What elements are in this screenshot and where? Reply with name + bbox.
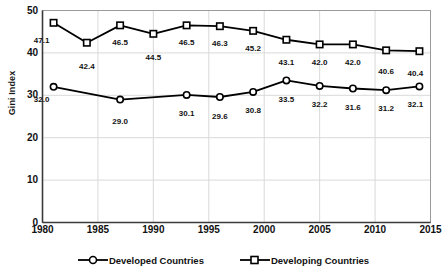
legend-marker-square-icon [240,254,270,266]
data-point-marker-square [50,20,56,26]
data-point-value-label: 29.0 [103,118,137,126]
data-point-marker-circle [183,92,189,98]
legend-item-label: Developing Countries [271,255,369,266]
data-point-marker-circle [117,96,123,102]
x-axis-tick-label: 1985 [76,225,120,235]
data-point-value-label: 33.5 [269,96,303,104]
data-point-value-label: 29.6 [203,113,237,121]
data-point-value-label: 43.1 [269,59,303,67]
x-axis-tick-label: 2010 [353,225,397,235]
x-axis-tick-label: 2000 [242,225,286,235]
x-axis-tick-label: 1980 [21,225,65,235]
x-axis-tick-label: 1995 [187,225,231,235]
legend-marker-circle-icon [78,254,108,266]
x-axis-tick-label: 2015 [409,225,447,235]
data-point-value-label: 45.2 [236,45,270,53]
legend-item-label: Developed Countries [109,255,204,266]
data-point-marker-square [316,41,322,47]
data-point-marker-square [283,37,289,43]
data-point-value-label: 30.1 [170,110,204,118]
data-point-marker-square [416,48,422,54]
series-line-1 [54,80,420,99]
data-point-marker-square [183,22,189,28]
data-point-marker-circle [50,84,56,90]
data-point-marker-circle [283,77,289,83]
data-point-value-label: 32.2 [303,101,337,109]
data-point-value-label: 30.8 [236,107,270,115]
x-axis-tick-label: 1990 [131,225,175,235]
data-point-marker-circle [217,94,223,100]
x-axis-tick-labels: 19801985199019952000200520102015 [0,225,447,243]
chart-legend: Developed CountriesDeveloping Countries [0,250,447,270]
data-point-value-label: 44.5 [136,54,170,62]
data-point-marker-circle [250,89,256,95]
data-point-marker-square [383,47,389,53]
data-point-value-label: 40.4 [398,70,432,78]
legend-item-2[interactable]: Developing Countries [240,254,369,266]
data-point-marker-circle [383,87,389,93]
gini-index-line-chart: Gini Index 01020304050 32.029.030.129.63… [0,0,447,272]
data-point-value-label: 46.5 [103,39,137,47]
data-point-marker-circle [350,85,356,91]
data-point-marker-circle [316,83,322,89]
data-point-marker-square [117,22,123,28]
data-point-marker-square [150,31,156,37]
data-point-marker-square [350,41,356,47]
data-point-value-label: 42.0 [303,59,337,67]
data-point-marker-square [217,23,223,29]
data-point-value-label: 46.3 [203,40,237,48]
data-point-marker-square [84,40,90,46]
data-point-value-label: 32.1 [398,101,432,109]
data-point-value-label: 32.0 [25,96,59,104]
legend-item-1[interactable]: Developed Countries [78,254,204,266]
data-point-value-label: 42.0 [336,59,370,67]
x-axis-tick-label: 2005 [298,225,342,235]
data-point-value-label: 31.6 [336,104,370,112]
data-point-value-label: 47.1 [25,37,59,45]
data-point-marker-square [250,28,256,34]
data-point-marker-circle [416,83,422,89]
data-point-value-label: 42.4 [70,63,104,71]
data-point-value-label: 46.5 [170,39,204,47]
